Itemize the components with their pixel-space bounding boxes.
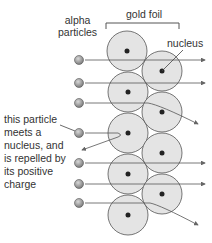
annotation-line: this particle <box>4 113 66 126</box>
annotation-line: nucleus, and <box>4 139 66 152</box>
foil-label: gold foil <box>126 8 162 20</box>
alpha-label: alpha particles <box>58 14 97 38</box>
nucleus-label: nucleus <box>167 37 203 49</box>
annotation-line: charge <box>4 178 66 191</box>
foil-bracket <box>106 23 179 29</box>
annotation-line: meets a <box>4 126 66 139</box>
annotation-line: is repelled by <box>4 152 66 165</box>
alpha-label-line: particles <box>58 26 97 38</box>
alpha-label-line: alpha <box>58 14 97 26</box>
annotation-line: its positive <box>4 165 66 178</box>
alpha-particles <box>75 56 84 208</box>
annotation-label: this particle meets a nucleus, and is re… <box>4 113 66 191</box>
